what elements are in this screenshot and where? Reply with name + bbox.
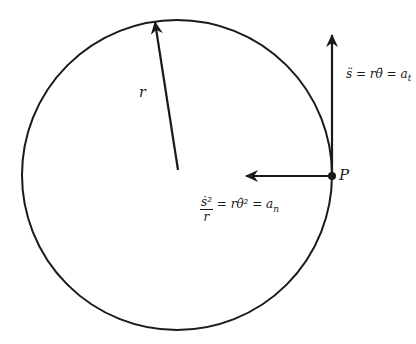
tangential-subscript: t [408,73,412,83]
normal-subscript: n [273,204,279,214]
normal-formula-rest: = rθ̇² = a [213,197,273,211]
diagram-canvas [0,0,416,344]
radius-label: r [139,84,146,100]
radius-arrow [155,22,178,170]
point-p-marker [328,172,336,180]
point-p-label: P [339,166,349,184]
fraction-numerator: ṡ² [200,196,213,210]
tangential-acceleration-label: s̈ = rθ̈ = at [346,67,411,83]
normal-fraction: ṡ² r [200,196,213,224]
fraction-denominator: r [200,210,213,224]
tangential-formula: s̈ = rθ̈ = a [346,67,408,81]
normal-acceleration-label: ṡ² r = rθ̇² = an [200,196,279,224]
